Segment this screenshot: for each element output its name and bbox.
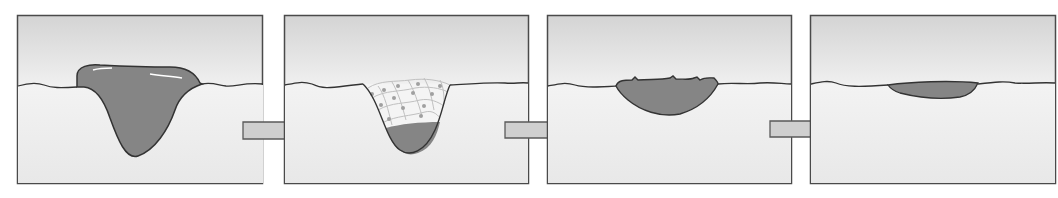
wound-healing-diagram	[0, 0, 1058, 198]
panel-2	[285, 16, 529, 184]
panel-3	[548, 16, 792, 184]
panel-4	[811, 16, 1056, 184]
panel-1	[18, 16, 264, 184]
